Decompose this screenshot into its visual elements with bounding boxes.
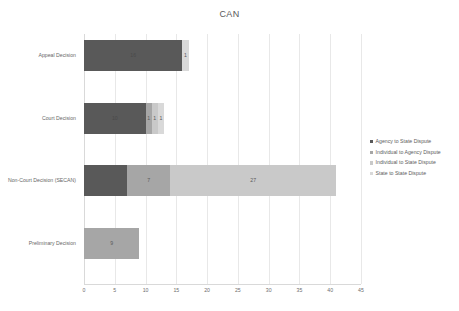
legend-label: Individual to Agency Dispute <box>376 150 441 155</box>
bar-value-label: 16 <box>130 53 136 58</box>
legend-item[interactable]: Individual to Agency Dispute <box>370 150 456 155</box>
x-axis-line <box>84 284 361 285</box>
category-axis-labels: Appeal Decision Court Decision Non-Court… <box>0 34 80 284</box>
x-tick-label: 40 <box>327 288 333 293</box>
gridline <box>361 34 362 284</box>
bar-value-label: 1 <box>147 116 150 121</box>
category-label: Non-Court Decision (SECAN) <box>0 178 76 183</box>
x-tick-label: 0 <box>83 288 86 293</box>
legend-item[interactable]: Agency to State Dispute <box>370 139 456 144</box>
category-label: Preliminary Decision <box>0 241 76 246</box>
bar-segment[interactable]: 16 <box>84 40 182 71</box>
bar-value-label: 9 <box>110 241 113 246</box>
bar-value-label: 7 <box>147 178 150 183</box>
legend-label: State to State Dispute <box>376 171 426 176</box>
bar-value-label: 1 <box>159 116 162 121</box>
bar-segment[interactable]: 9 <box>84 228 139 259</box>
bar-row[interactable]: 161 <box>84 40 361 71</box>
bar-row[interactable]: 10111 <box>84 103 361 134</box>
bar-segment[interactable]: 1 <box>158 103 164 134</box>
legend-swatch-icon <box>370 172 373 175</box>
category-label: Appeal Decision <box>0 53 76 58</box>
x-tick-label: 35 <box>297 288 303 293</box>
x-tick-label: 20 <box>204 288 210 293</box>
legend-swatch-icon <box>370 140 373 143</box>
bar-segment[interactable]: 1 <box>182 40 188 71</box>
bar-segment[interactable] <box>84 165 127 196</box>
x-tick-label: 15 <box>173 288 179 293</box>
chart-root: CAN Appeal Decision Court Decision Non-C… <box>0 0 459 311</box>
x-axis-ticks: 051015202530354045 <box>84 288 361 300</box>
legend-swatch-icon <box>370 161 373 164</box>
category-label: Court Decision <box>0 116 76 121</box>
x-tick-label: 25 <box>235 288 241 293</box>
bar-value-label: 1 <box>153 116 156 121</box>
legend-item[interactable]: State to State Dispute <box>370 171 456 176</box>
bar-segment[interactable]: 7 <box>127 165 170 196</box>
bar-segment[interactable]: 10 <box>84 103 146 134</box>
x-tick-label: 30 <box>266 288 272 293</box>
bar-segment[interactable]: 27 <box>170 165 336 196</box>
chart-title: CAN <box>0 9 459 19</box>
bar-value-label: 10 <box>112 116 118 121</box>
plot-area: 161101117279 <box>84 34 361 284</box>
bar-rows: 161101117279 <box>84 34 361 284</box>
chart-legend: Agency to State DisputeIndividual to Age… <box>370 139 456 182</box>
x-tick-label: 10 <box>143 288 149 293</box>
x-tick-label: 5 <box>113 288 116 293</box>
x-tick-label: 45 <box>358 288 364 293</box>
legend-swatch-icon <box>370 151 373 154</box>
bar-row[interactable]: 9 <box>84 228 361 259</box>
bar-value-label: 1 <box>184 53 187 58</box>
bar-value-label: 27 <box>250 178 256 183</box>
legend-item[interactable]: Individual to State Dispute <box>370 160 456 165</box>
legend-label: Individual to State Dispute <box>376 160 436 165</box>
bar-row[interactable]: 727 <box>84 165 361 196</box>
legend-label: Agency to State Dispute <box>376 139 432 144</box>
